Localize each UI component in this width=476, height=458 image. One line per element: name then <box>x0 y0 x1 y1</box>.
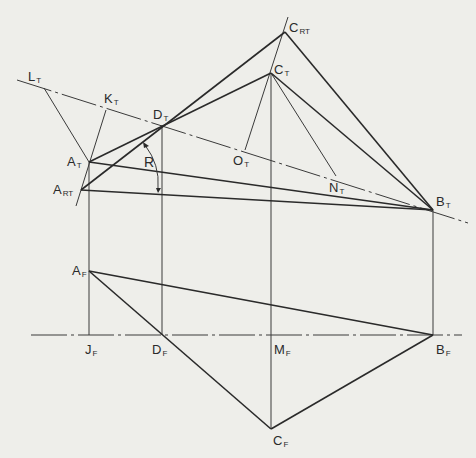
label-B-T: BT <box>436 195 451 210</box>
label-C-T: CT <box>274 63 289 78</box>
arrowhead-lower <box>156 188 161 193</box>
top-axis-centerline <box>17 80 468 223</box>
label-O-T: OT <box>233 154 249 169</box>
angle-label-R: R <box>144 155 154 169</box>
edge-CT-BT <box>271 73 433 210</box>
revolution-diagram <box>0 0 476 458</box>
edge-AF-BF <box>89 271 433 335</box>
label-B-F: BF <box>436 343 451 358</box>
label-C-RT: CRT <box>289 21 310 36</box>
edge-AT-BT <box>89 162 433 210</box>
edge-CF-BF <box>271 335 433 429</box>
edge-AT-CT <box>89 73 271 162</box>
edge-ART-CRT <box>81 32 285 190</box>
label-L-T: LT <box>28 70 41 85</box>
label-A-F: AF <box>72 264 87 279</box>
label-M-F: MF <box>274 343 291 358</box>
label-D-F: DF <box>152 343 167 358</box>
edge-AF-CF <box>89 271 271 429</box>
label-D-T: DT <box>153 108 168 123</box>
edge-CRT-BT <box>285 32 433 210</box>
label-C-F: CF <box>273 434 288 449</box>
line-CT-NT <box>271 73 336 176</box>
line-CRT-CT-OT <box>245 17 288 150</box>
label-A-RT: ART <box>53 183 73 198</box>
label-K-T: KT <box>104 92 119 107</box>
label-N-T: NT <box>329 181 344 196</box>
arrowhead-upper <box>143 142 149 148</box>
line-LT-AT <box>44 88 89 162</box>
edge-ART-BT <box>81 190 433 210</box>
label-A-T: AT <box>67 155 82 170</box>
label-J-F: JF <box>85 343 97 358</box>
